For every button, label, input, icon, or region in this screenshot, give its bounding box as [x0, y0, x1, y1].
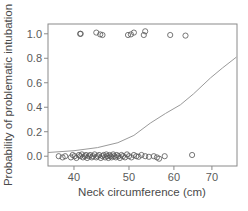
y-axis-title: Probability of problematic intubation — [2, 4, 14, 186]
x-tick-label: 70 — [206, 171, 218, 183]
y-tick-label: 0.0 — [27, 150, 42, 162]
x-axis: 40506070 — [68, 166, 218, 183]
data-point — [183, 33, 188, 38]
y-axis: 0.00.20.40.60.81.0 — [27, 28, 48, 162]
fitted-curve — [48, 57, 236, 152]
data-point — [131, 30, 136, 35]
y-tick-label: 0.2 — [27, 126, 42, 138]
plot-frame — [48, 24, 237, 166]
x-axis-title: Neck circumference (cm) — [78, 186, 206, 198]
x-tick-label: 60 — [168, 171, 180, 183]
y-tick-label: 0.6 — [27, 77, 42, 89]
data-point — [151, 154, 156, 159]
data-point — [190, 152, 195, 157]
data-point — [162, 154, 167, 159]
y-tick-label: 1.0 — [27, 28, 42, 40]
x-tick-label: 50 — [123, 171, 135, 183]
data-point — [168, 32, 173, 37]
x-tick-label: 40 — [68, 171, 80, 183]
data-points — [56, 29, 195, 162]
y-tick-label: 0.4 — [27, 101, 42, 113]
data-point — [146, 154, 151, 159]
y-tick-label: 0.8 — [27, 52, 42, 64]
logistic-regression-chart: 0.00.20.40.60.81.0 40506070 Neck circumf… — [0, 0, 248, 211]
